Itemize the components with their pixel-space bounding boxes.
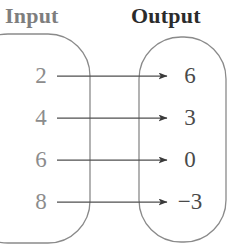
input-value-1: 2 <box>35 64 47 87</box>
mapping-diagram: Input Output 2 4 6 8 6 3 0 −3 <box>0 0 234 244</box>
output-value-4: −3 <box>178 190 202 213</box>
input-value-2: 4 <box>35 106 47 129</box>
output-value-2: 3 <box>184 106 196 129</box>
input-value-3: 6 <box>35 148 47 171</box>
output-value-3: 0 <box>184 148 196 171</box>
output-value-1: 6 <box>184 64 196 87</box>
input-value-4: 8 <box>35 190 47 213</box>
